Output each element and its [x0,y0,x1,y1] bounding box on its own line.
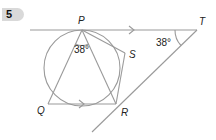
geometry-diagram: P T S R Q 38° 38° [0,0,216,140]
point-label-Q: Q [37,105,45,116]
chord-PQ [48,30,82,104]
circle [44,30,120,106]
chord-SR [116,53,125,104]
chord-PR [82,30,116,104]
line-TR [92,30,197,132]
point-label-T: T [199,16,206,27]
angle-label-T: 38° [156,37,171,48]
angle-label-P: 38° [74,44,89,55]
point-label-R: R [121,107,128,118]
point-label-S: S [129,49,136,60]
point-label-P: P [78,15,85,26]
angle-arc-T [175,30,181,46]
